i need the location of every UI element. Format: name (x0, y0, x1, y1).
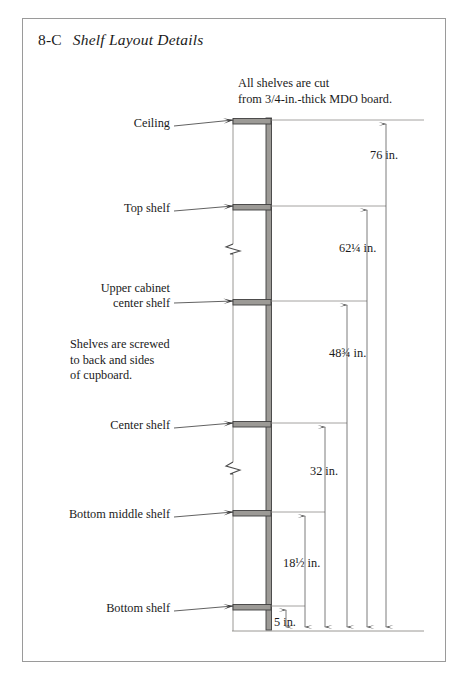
back-wall (266, 118, 272, 630)
leader-top-shelf (174, 206, 233, 211)
shelf-top (233, 205, 271, 211)
break-mark-upper (226, 244, 240, 254)
shelf-bottom (233, 605, 271, 611)
leader-ceiling (174, 120, 233, 126)
leader-center-shelf (174, 423, 233, 428)
break-mark-lower (226, 462, 240, 474)
shelf-elevation-drawing (0, 0, 468, 681)
shelf-bottom-middle (233, 511, 271, 517)
shelf-ceiling (233, 119, 271, 125)
shelf-center (233, 422, 271, 428)
shelf-boards (233, 119, 271, 611)
leader-bottom-shelf (174, 606, 233, 611)
leader-upper-cabinet-center (174, 301, 233, 303)
leader-bottom-middle-shelf (174, 512, 233, 517)
shelf-upper-center (233, 300, 271, 306)
